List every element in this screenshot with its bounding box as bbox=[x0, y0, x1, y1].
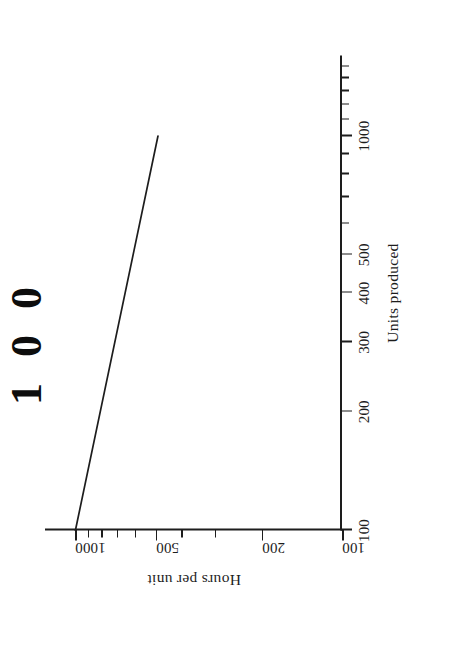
x-axis-tick bbox=[341, 253, 352, 255]
plot-area: 1002003004005001000 1002005001000 Units … bbox=[45, 55, 342, 530]
scanned-page: 1002003004005001000 1002005001000 Units … bbox=[0, 0, 468, 665]
rotated-figure-frame: 1002003004005001000 1002005001000 Units … bbox=[0, 0, 468, 665]
series-line-learning-curve bbox=[75, 136, 158, 530]
x-axis-tick bbox=[341, 222, 349, 224]
y-axis-tick-label: 100 bbox=[342, 539, 365, 556]
x-axis-tick-label: 400 bbox=[356, 281, 373, 304]
x-axis-tick-label: 200 bbox=[356, 400, 373, 423]
x-axis-tick bbox=[341, 65, 349, 67]
cropped-title-fragment: 100 bbox=[1, 261, 52, 405]
x-axis-tick bbox=[341, 134, 352, 136]
y-axis-tick-label: 200 bbox=[262, 539, 285, 556]
y-axis-tick-label: 1000 bbox=[75, 539, 106, 556]
x-axis-tick bbox=[341, 291, 352, 293]
x-axis-title: Units produced bbox=[384, 243, 402, 342]
chart-figure: 1002003004005001000 1002005001000 Units … bbox=[0, 0, 468, 665]
x-axis-tick bbox=[341, 76, 349, 78]
x-axis-tick bbox=[341, 118, 349, 120]
x-axis-tick-label: 500 bbox=[356, 243, 373, 266]
x-axis-tick bbox=[341, 340, 352, 342]
y-axis-tick-label: 500 bbox=[156, 539, 179, 556]
y-axis-title: Hours per unit bbox=[147, 570, 241, 588]
x-axis-tick-label: 1000 bbox=[356, 120, 373, 151]
x-axis-tick bbox=[341, 103, 349, 105]
x-axis-tick bbox=[341, 89, 349, 91]
x-axis-tick bbox=[341, 152, 349, 154]
x-axis-tick bbox=[341, 172, 349, 174]
data-series-layer bbox=[45, 55, 342, 530]
x-axis-tick bbox=[341, 410, 352, 412]
x-axis-tick bbox=[341, 195, 349, 197]
x-axis-tick-label: 300 bbox=[356, 330, 373, 353]
